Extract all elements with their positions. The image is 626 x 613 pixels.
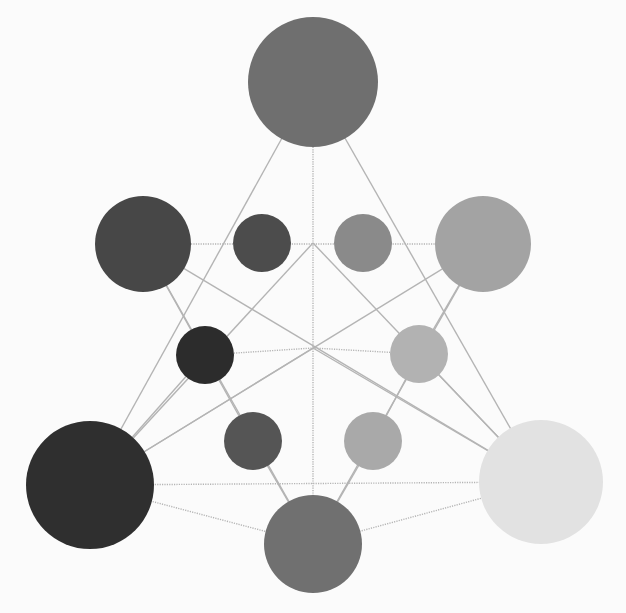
node-inner-ml (176, 326, 234, 384)
node-upper-left (95, 196, 191, 292)
diagram-canvas (0, 0, 626, 613)
network-diagram (0, 0, 626, 613)
node-inner-mr (390, 325, 448, 383)
node-bottom-center (264, 495, 362, 593)
node-bottom-right (479, 420, 603, 544)
node-top (248, 17, 378, 147)
node-inner-ul (233, 214, 291, 272)
node-inner-ll (224, 412, 282, 470)
node-bottom-left (26, 421, 154, 549)
edge-layer (90, 82, 541, 544)
node-upper-right (435, 196, 531, 292)
node-layer (26, 17, 603, 593)
edge-bottom-left-to-bottom-right (90, 482, 541, 485)
node-inner-ur (334, 214, 392, 272)
node-inner-lr (344, 412, 402, 470)
